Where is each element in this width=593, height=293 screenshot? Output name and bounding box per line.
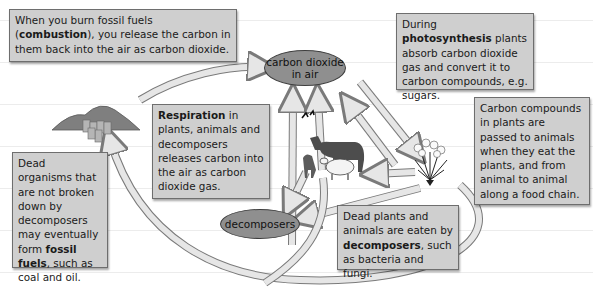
fossil-fuels-box: Dead organisms that are not broken down … (12, 152, 108, 268)
lamb-illustration (303, 154, 316, 178)
co2-node-label-line2: in air (266, 68, 344, 80)
decomposition-box: Dead plants and animals are eaten by dec… (337, 205, 459, 270)
co2-in-air-node: carbon dioxide in air (264, 50, 346, 86)
fossil-fuel-illustration (52, 106, 140, 142)
co2-node-label-line1: carbon dioxide (266, 56, 344, 68)
birds-illustration (302, 111, 314, 118)
respiration-box: Respiration in plants, animals and decom… (152, 104, 270, 199)
food-chain-box: Carbon compounds in plants are passed to… (474, 97, 590, 205)
decomposers-node-label: decomposers (225, 218, 295, 230)
photosynthesis-term: photosynthesis (402, 32, 492, 44)
plant-illustration (414, 139, 447, 186)
decomposers-node: decomposers (220, 209, 300, 239)
respiration-text-post: in plants, animals and decomposers relea… (158, 109, 264, 192)
decomposers-term: decomposers (343, 239, 421, 251)
food-chain-text: Carbon compounds in plants are passed to… (480, 102, 581, 200)
decomposition-text-pre: Dead plants and animals are eaten by (343, 210, 453, 236)
photosynthesis-text-pre: During (402, 18, 437, 30)
photosynthesis-box: During photosynthesis plants absorb carb… (396, 13, 534, 90)
respiration-term: Respiration (158, 109, 225, 121)
fossil-text-pre: Dead organisms that are not broken down … (18, 157, 98, 255)
combustion-box: When you burn fossil fuels (combustion),… (9, 9, 237, 62)
combustion-term: combustion (19, 28, 87, 40)
